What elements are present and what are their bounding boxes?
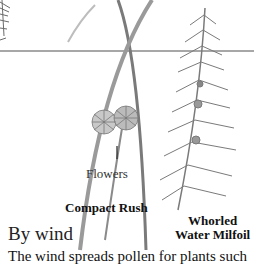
section-body-text: The wind spreads pollen for plants such <box>8 248 247 265</box>
whorled-water-milfoil-label: Whorled Water Milfoil <box>175 214 250 242</box>
partial-plant-fragment <box>0 0 10 40</box>
compact-rush-label: Compact Rush <box>65 200 148 216</box>
section-heading: By wind <box>8 223 73 245</box>
milfoil-label-line1: Whorled <box>175 214 250 228</box>
milfoil-label-line2: Water Milfoil <box>175 228 250 242</box>
flowers-label: Flowers <box>86 166 128 182</box>
whorled-water-milfoil-plant <box>160 8 236 210</box>
